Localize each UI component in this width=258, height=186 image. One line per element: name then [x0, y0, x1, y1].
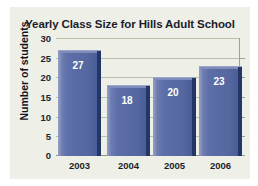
gridline-30: 30 — [56, 38, 239, 39]
bar-value-2004: 18 — [108, 95, 146, 106]
bar-value-2006: 23 — [200, 76, 238, 87]
x-tick-label-2005: 2005 — [153, 160, 196, 171]
plot-area: 30 25 20 15 10 5 0 — [56, 38, 239, 156]
x-tick-label-2003: 2003 — [58, 160, 101, 171]
bar-chart-figure: Yearly Class Size for Hills Adult School… — [0, 0, 258, 186]
y-tick-label-10: 10 — [40, 111, 51, 122]
bar-2006[interactable]: 23 — [199, 66, 242, 157]
bar-value-2005: 20 — [154, 87, 192, 98]
y-tick-label-0: 0 — [46, 150, 51, 161]
x-tick-label-2004: 2004 — [107, 160, 150, 171]
bar-2003[interactable]: 27 — [58, 50, 101, 156]
y-tick-label-20: 20 — [40, 72, 51, 83]
x-tick-label-2006: 2006 — [199, 160, 242, 171]
y-tick-label-30: 30 — [40, 33, 51, 44]
chart-panel: Yearly Class Size for Hills Adult School… — [10, 7, 250, 179]
y-tick-label-5: 5 — [46, 131, 51, 142]
bar-2005[interactable]: 20 — [153, 77, 196, 156]
y-axis-title: Number of students — [18, 21, 30, 121]
bar-value-2003: 27 — [59, 60, 97, 71]
chart-title: Yearly Class Size for Hills Adult School — [10, 18, 250, 30]
y-tick-label-25: 25 — [40, 52, 51, 63]
right-tick-25 — [239, 58, 245, 59]
y-tick-label-15: 15 — [40, 92, 51, 103]
bar-2004[interactable]: 18 — [107, 85, 150, 156]
